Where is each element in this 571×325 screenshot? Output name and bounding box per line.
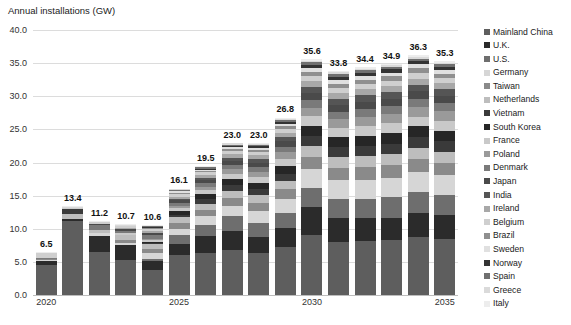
bar-segment <box>222 231 243 250</box>
bar-segment <box>355 102 376 109</box>
bar-2028[interactable] <box>248 143 269 295</box>
legend-item-spain[interactable]: Spain <box>484 270 570 284</box>
bar-segment <box>275 174 296 181</box>
bar-segment <box>62 221 83 295</box>
bar-segment <box>381 144 402 155</box>
legend-label: Taiwan <box>493 82 520 91</box>
bar-value-label: 36.3 <box>409 42 427 52</box>
legend-item-taiwan[interactable]: Taiwan <box>484 79 570 93</box>
bar-2034[interactable] <box>408 55 429 295</box>
bar-2023[interactable] <box>115 224 136 295</box>
stacked-bar-chart: Annual installations (GW) 0.05.010.015.0… <box>0 0 571 325</box>
bar-segment <box>328 105 349 112</box>
bar-segment <box>355 117 376 126</box>
bars-group <box>33 30 458 295</box>
bar-2020[interactable] <box>36 252 57 295</box>
bar-segment <box>301 188 322 207</box>
bar-2025[interactable] <box>169 188 190 295</box>
legend-swatch-icon <box>484 138 490 144</box>
legend-item-germany[interactable]: Germany <box>484 66 570 80</box>
legend-item-south-korea[interactable]: South Korea <box>484 120 570 134</box>
bar-2024[interactable] <box>142 225 163 295</box>
bar-value-label: 34.9 <box>383 51 401 61</box>
y-axis-tick-label: 5.0 <box>14 257 27 267</box>
bar-segment <box>355 126 376 135</box>
legend-label: Vietnam <box>493 109 524 118</box>
legend-item-netherlands[interactable]: Netherlands <box>484 93 570 107</box>
legend-item-poland[interactable]: Poland <box>484 147 570 161</box>
bar-segment <box>275 213 296 229</box>
legend-label: Japan <box>493 177 516 186</box>
legend-item-vietnam[interactable]: Vietnam <box>484 107 570 121</box>
bar-segment <box>434 163 455 175</box>
bar-2030[interactable] <box>301 59 322 295</box>
bar-segment <box>355 136 376 146</box>
bar-segment <box>36 265 57 295</box>
bar-segment <box>381 178 402 197</box>
legend: Mainland ChinaU.K.U.S.GermanyTaiwanNethe… <box>484 25 570 310</box>
bar-segment <box>328 242 349 295</box>
legend-item-sweden[interactable]: Sweden <box>484 243 570 257</box>
bar-segment <box>355 199 376 219</box>
legend-item-japan[interactable]: Japan <box>484 175 570 189</box>
bar-segment <box>328 180 349 199</box>
bar-2022[interactable] <box>89 221 110 295</box>
bar-2032[interactable] <box>355 67 376 295</box>
bar-2027[interactable] <box>222 143 243 295</box>
bar-segment <box>381 240 402 295</box>
legend-label: Ireland <box>493 204 519 213</box>
bar-segment <box>408 91 429 98</box>
bar-segment <box>408 137 429 148</box>
bar-segment <box>222 206 243 216</box>
legend-item-u-k-[interactable]: U.K. <box>484 39 570 53</box>
legend-item-france[interactable]: France <box>484 134 570 148</box>
bar-segment <box>355 109 376 117</box>
legend-swatch-icon <box>484 83 490 89</box>
legend-label: Greece <box>493 286 521 295</box>
legend-swatch-icon <box>484 301 490 307</box>
bar-2033[interactable] <box>381 64 402 295</box>
bar-segment <box>434 239 455 295</box>
legend-swatch-icon <box>484 178 490 184</box>
legend-item-mainland-china[interactable]: Mainland China <box>484 25 570 39</box>
legend-item-brazil[interactable]: Brazil <box>484 229 570 243</box>
bar-2029[interactable] <box>275 117 296 295</box>
bar-segment <box>355 180 376 199</box>
bar-segment <box>381 106 402 114</box>
legend-label: South Korea <box>493 123 541 132</box>
bar-2031[interactable] <box>328 71 349 295</box>
legend-swatch-icon <box>484 97 490 103</box>
chart-axis-title: Annual installations (GW) <box>8 5 115 16</box>
bar-segment <box>222 250 243 295</box>
y-axis-tick-label: 25.0 <box>9 124 27 134</box>
bar-segment <box>434 96 455 103</box>
legend-item-denmark[interactable]: Denmark <box>484 161 570 175</box>
bar-segment <box>328 128 349 137</box>
bar-segment <box>301 146 322 157</box>
bar-value-label: 23.0 <box>250 130 268 140</box>
bar-segment <box>222 198 243 206</box>
bar-segment <box>408 237 429 295</box>
bar-value-label: 16.1 <box>170 175 188 185</box>
legend-label: Netherlands <box>493 95 539 104</box>
legend-item-greece[interactable]: Greece <box>484 283 570 297</box>
legend-swatch-icon <box>484 287 490 293</box>
legend-item-ireland[interactable]: Ireland <box>484 202 570 216</box>
legend-item-norway[interactable]: Norway <box>484 256 570 270</box>
legend-item-belgium[interactable]: Belgium <box>484 215 570 229</box>
legend-item-u-s-[interactable]: U.S. <box>484 52 570 66</box>
bar-segment <box>301 207 322 236</box>
legend-item-italy[interactable]: Italy <box>484 297 570 311</box>
bar-2035[interactable] <box>434 61 455 295</box>
bar-segment <box>301 126 322 136</box>
bar-segment <box>408 85 429 92</box>
legend-item-india[interactable]: India <box>484 188 570 202</box>
y-axis-tick-label: 15.0 <box>9 191 27 201</box>
legend-swatch-icon <box>484 219 490 225</box>
x-axis-tick-label: 2035 <box>435 297 455 307</box>
bar-2021[interactable] <box>62 206 83 295</box>
bar-segment <box>195 216 216 224</box>
bar-segment <box>275 181 296 189</box>
bar-2026[interactable] <box>195 166 216 295</box>
bar-segment <box>355 218 376 240</box>
